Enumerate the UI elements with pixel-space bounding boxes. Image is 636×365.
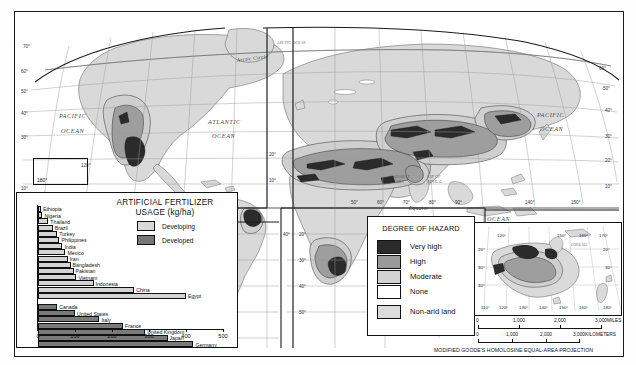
aus-lon-bot-0: 110°	[481, 305, 490, 310]
aus-sea-label: CORAL SEA	[571, 243, 587, 247]
bar-vietnam	[38, 274, 76, 280]
lat-label-right-3: 30°	[605, 134, 612, 139]
bar-united-kingdom	[38, 329, 145, 335]
km-cap-1	[512, 339, 513, 343]
km-unit: KILOMETERS	[585, 332, 616, 337]
ocean-label-atlantic: ATLANTIC	[207, 118, 241, 125]
ocean-label-pacific-east: PACIFIC	[536, 111, 564, 118]
aus-lat-left-1: 30°	[478, 265, 485, 270]
miles-scale-line	[478, 328, 602, 329]
moderate-label: Moderate	[410, 272, 442, 281]
miles-cap-2	[560, 325, 561, 329]
ocean-label-pacific-west: PACIFIC	[58, 112, 86, 119]
very-high-swatch	[377, 240, 401, 254]
bar-iran	[38, 256, 68, 262]
km-tick-1: 1,000	[506, 332, 518, 337]
legend-row-very-high: Very high	[377, 239, 474, 254]
lat-label-africa-0: 20°	[299, 232, 306, 237]
lat-label-africa-4: 40°	[283, 232, 290, 237]
x-tick-400	[186, 329, 187, 332]
aus-lon-bot-1: 120°	[499, 305, 508, 310]
x-tick-500	[223, 329, 224, 332]
lat-label-left-3: 40°	[21, 111, 28, 116]
bar-germany	[38, 341, 193, 347]
non-arid-swatch	[377, 305, 401, 319]
lat-label-left-2: 50°	[21, 89, 28, 94]
aus-lon-bot-3: 140°	[539, 305, 548, 310]
sea-label-arabian: ARABIAN	[392, 175, 410, 179]
ocean-label-indian-2: OCEAN	[487, 215, 511, 222]
km-cap-0	[478, 339, 479, 343]
miles-cap-1	[519, 325, 520, 329]
miles-cap-3	[601, 325, 602, 329]
lat-label-left-4: 30°	[21, 135, 28, 140]
x-tick-label-500: 500	[218, 333, 227, 339]
miles-tick-0: 0	[476, 318, 479, 323]
bar-india	[38, 243, 62, 249]
lat-label-africa-2: 40°	[299, 284, 306, 289]
bar-thailand	[38, 218, 48, 224]
bar-united-states	[38, 310, 75, 316]
legend-row-none: None	[377, 284, 474, 299]
lon-label-4: 90°	[455, 200, 462, 205]
moderate-swatch	[377, 270, 401, 284]
aus-lon-top-0: 120°	[497, 233, 506, 238]
lat-label-africa-1: 30°	[299, 258, 306, 263]
very-high-label: Very high	[410, 242, 442, 251]
fertilizer-chart-inset: ARTIFICIAL FERTILIZER USAGE (kg/ha) Deve…	[16, 192, 238, 348]
lat-label-mid-0: 20°	[269, 152, 276, 157]
km-tick-2: 2,000	[540, 332, 552, 337]
ocean-label-pacific-west-2: OCEAN	[61, 127, 85, 134]
lon-180-box: 180°	[33, 158, 88, 185]
bar-label-turkey: Turkey	[59, 231, 75, 237]
bar-label-iran: Iran	[70, 256, 79, 262]
bar-turkey	[38, 231, 57, 237]
bar-label-germany: Germany	[195, 342, 216, 348]
miles-tick-2: 2,000	[554, 318, 566, 323]
km-cap-3	[579, 339, 580, 343]
km-cap-2	[546, 339, 547, 343]
hazard-legend: DEGREE OF HAZARD Very high High Moderate…	[367, 216, 475, 336]
x-tick-0	[38, 329, 39, 332]
lat-label-right-4: 20°	[605, 158, 612, 163]
x-tick-label-300: 300	[144, 333, 153, 339]
sea-label-bengal: BAY OF	[427, 175, 441, 179]
high-swatch	[377, 255, 401, 269]
lon-label-3: 80°	[429, 200, 436, 205]
chart-plot-area: EthiopiaNigeriaThailandBrazilTurkeyPhili…	[38, 206, 223, 330]
lon-label-1: 60°	[377, 200, 384, 205]
bar-label-egypt: Egypt	[188, 293, 201, 299]
aus-lon-top-3: 170°	[599, 233, 608, 238]
bar-france	[38, 323, 123, 329]
aus-lon-top-1: 150°	[557, 233, 566, 238]
x-tick-label-100: 100	[70, 333, 79, 339]
x-tick-label-400: 400	[181, 333, 190, 339]
lat-label-right-1: 50°	[603, 86, 610, 91]
miles-cap-0	[478, 325, 479, 329]
bar-label-ethiopia: Ethiopia	[43, 206, 62, 212]
sea-label-bengal-2: BENGAL	[427, 180, 442, 184]
miles-unit: MILES	[607, 318, 621, 323]
none-swatch	[377, 285, 401, 299]
hazard-legend-rows: Very high High Moderate None Non-arid la…	[368, 239, 474, 319]
bar-canada	[38, 304, 57, 310]
aus-lat-left-2: 40°	[478, 283, 485, 288]
aus-lat-right-0: 20°	[603, 247, 610, 252]
lat-label-right-0: 60°	[599, 66, 606, 71]
lat-label-left-1: 60°	[21, 69, 28, 74]
bar-bangladesh	[38, 262, 71, 268]
legend-row-non-arid: Non-arid land	[377, 304, 474, 319]
projection-note: MODIFIED GOODE'S HOMOLOSINE EQUAL-AREA P…	[434, 347, 593, 353]
ocean-label-pacific-east-2: OCEAN	[540, 125, 564, 132]
bar-label-mexico: Mexico	[67, 250, 83, 256]
bar-label-bangladesh: Bangladesh	[73, 262, 100, 268]
bar-label-philippines: Philippines	[61, 237, 86, 243]
miles-tick-3: 3,000	[595, 318, 607, 323]
bar-label-thailand: Thailand	[50, 219, 70, 225]
lat-label-left-5: 10°	[21, 186, 28, 191]
legend-row-high: High	[377, 254, 474, 269]
ocean-label-arctic: ARCTIC OCEAN	[276, 41, 306, 45]
bar-brazil	[38, 225, 53, 231]
km-tick-0: 0	[476, 332, 479, 337]
x-tick-100	[75, 329, 76, 332]
